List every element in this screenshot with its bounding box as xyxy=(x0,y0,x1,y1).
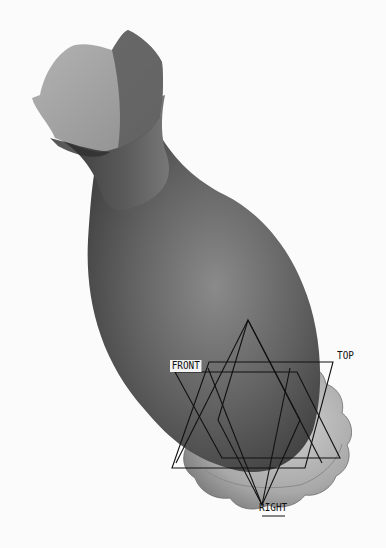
right-datum-label[interactable]: RIGHT xyxy=(259,502,287,514)
model-viewport[interactable]: FRONT TOP RIGHT xyxy=(0,0,386,548)
top-datum-label[interactable]: TOP xyxy=(337,350,354,362)
front-datum-label[interactable]: FRONT xyxy=(170,360,202,372)
model-render xyxy=(0,0,386,548)
